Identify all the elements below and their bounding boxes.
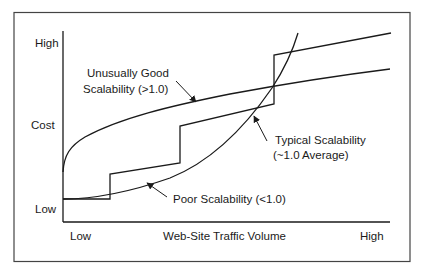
typical-scalability-label-line1: Typical Scalability: [275, 134, 366, 146]
y-axis-high-label: High: [35, 37, 59, 49]
scalability-diagram: High Cost Low Low Web-Site Traffic Volum…: [0, 0, 423, 269]
y-axis-title: Cost: [31, 119, 55, 131]
typical-scalability-steps: [63, 33, 391, 199]
x-axis-high-label: High: [360, 230, 384, 242]
typical-scalability-arrow-icon: [254, 116, 267, 141]
typical-scalability-label-line2: (~1.0 Average): [273, 149, 349, 161]
good-scalability-label-line1: Unusually Good: [87, 67, 169, 79]
poor-scalability-label: Poor Scalability (<1.0): [173, 193, 286, 205]
x-axis-low-label: Low: [70, 230, 92, 242]
y-axis-low-label: Low: [35, 203, 57, 215]
poor-scalability-curve: [63, 33, 298, 199]
good-scalability-arrow-icon: [176, 81, 196, 102]
x-axis-title: Web-Site Traffic Volume: [163, 230, 286, 242]
good-scalability-label-line2: Scalability (>1.0): [83, 83, 168, 95]
poor-scalability-arrow-icon: [147, 183, 167, 197]
